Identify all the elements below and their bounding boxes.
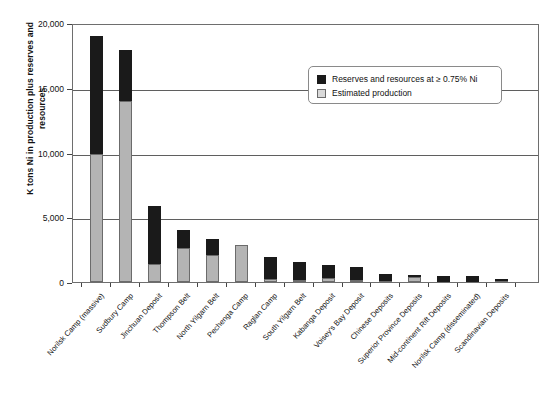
- x-tick-label: Scandinavian Deposits: [453, 292, 511, 355]
- open-square-icon: [317, 89, 326, 98]
- legend-label-reserves: Reserves and resources at ≥ 0.75% Ni: [332, 75, 477, 84]
- legend-item-production: Estimated production: [317, 86, 493, 100]
- nickel-reserves-bar-chart: K tons Ni in production plus reserves an…: [0, 0, 556, 396]
- x-axis-labels: Norilsk Camp (massive)Sudbury CampJinchu…: [0, 0, 556, 396]
- black-square-icon: [317, 75, 326, 84]
- legend-label-production: Estimated production: [332, 89, 412, 98]
- chart-legend: Reserves and resources at ≥ 0.75% Ni Est…: [308, 66, 502, 104]
- legend-item-reserves: Reserves and resources at ≥ 0.75% Ni: [317, 72, 493, 86]
